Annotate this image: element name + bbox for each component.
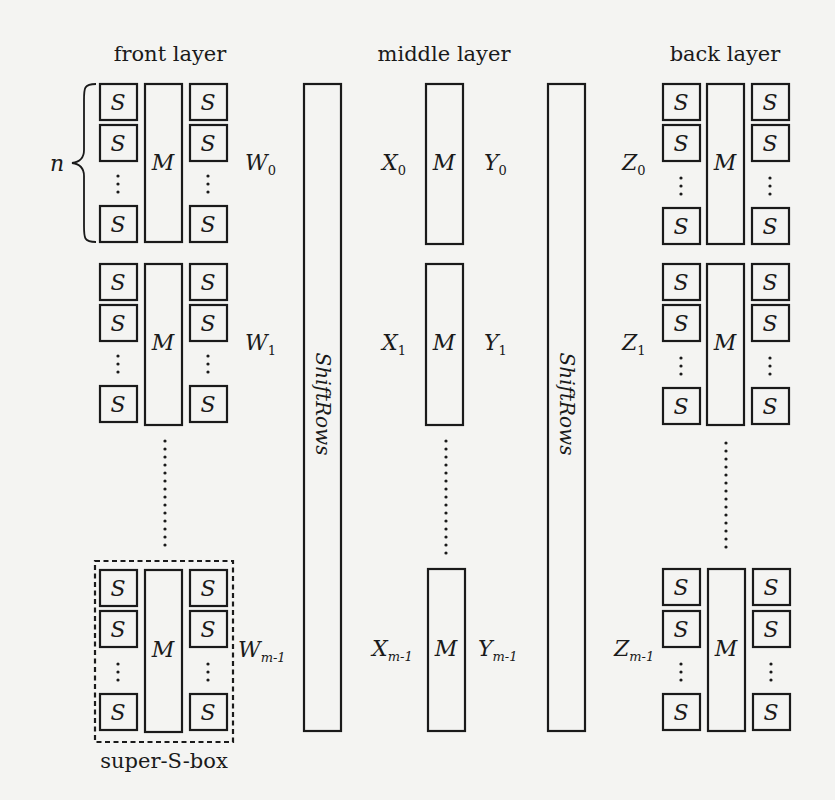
mix-label: M	[714, 636, 738, 661]
middle-layer-header: middle layer	[378, 42, 512, 66]
mix-label: M	[434, 636, 458, 661]
s-box-label: S	[763, 700, 778, 725]
front-layer-header: front layer	[114, 42, 228, 66]
s-box-label: S	[673, 131, 688, 156]
vdots-icon	[679, 356, 771, 375]
s-box-label: S	[110, 576, 125, 601]
s-box-label: S	[200, 700, 215, 725]
word-label-x1: X1	[380, 330, 406, 358]
s-box-label: S	[110, 392, 125, 417]
back-group-last: S S S M S S S Zm-1	[613, 569, 790, 731]
shiftrows-label-left: ShiftRows	[311, 353, 335, 456]
s-box-label: S	[762, 131, 777, 156]
mix-label: M	[432, 330, 456, 355]
s-box-label: S	[110, 270, 125, 295]
s-box-label: S	[762, 394, 777, 419]
vdots-icon	[679, 662, 772, 681]
middle-group-1: M X1 Y1	[380, 264, 507, 425]
front-group-last: S S S M S S S Wm-1	[100, 570, 286, 732]
s-box-label: S	[200, 131, 215, 156]
mix-label: M	[151, 330, 175, 355]
word-label-y0: Y0	[484, 150, 507, 178]
vdots-icon	[679, 176, 771, 195]
mix-label: M	[432, 150, 456, 175]
s-box-label: S	[673, 311, 688, 336]
middle-group-last: M Xm-1 Ym-1	[370, 569, 518, 731]
s-box-label: S	[110, 212, 125, 237]
s-box-label: S	[200, 576, 215, 601]
front-dotted-connector-icon	[163, 439, 166, 546]
word-label-z0: Z0	[621, 150, 646, 178]
s-box-label: S	[673, 617, 688, 642]
s-box-label: S	[200, 392, 215, 417]
s-box-label: S	[200, 270, 215, 295]
diagram-canvas: front layer middle layer back layer n S …	[0, 0, 835, 800]
middle-dotted-connector-icon	[444, 439, 447, 554]
s-box-label: S	[110, 700, 125, 725]
s-box-label: S	[762, 270, 777, 295]
word-label-w1: W1	[245, 330, 276, 358]
back-group-1: S S S M S S S Z1	[621, 264, 789, 425]
word-label-zm1: Zm-1	[613, 636, 654, 664]
s-box-label: S	[200, 90, 215, 115]
word-label-wm1: Wm-1	[238, 637, 286, 665]
s-box-label: S	[200, 212, 215, 237]
middle-group-0: M X0 Y0	[380, 84, 507, 244]
s-box-label: S	[110, 131, 125, 156]
s-box-label: S	[110, 90, 125, 115]
s-box-label: S	[110, 311, 125, 336]
word-label-w0: W0	[245, 150, 276, 178]
super-sbox-diagram: front layer middle layer back layer n S …	[0, 0, 835, 800]
s-box-label: S	[762, 214, 777, 239]
s-box-label: S	[200, 617, 215, 642]
s-box-label: S	[762, 90, 777, 115]
back-layer-header: back layer	[670, 42, 782, 66]
brace-icon	[72, 84, 96, 242]
word-label-y1: Y1	[484, 330, 507, 358]
s-box-label: S	[110, 617, 125, 642]
s-box-label: S	[673, 214, 688, 239]
shiftrows-label-right: ShiftRows	[555, 353, 579, 456]
front-group-0: S S S M S S S W0	[100, 84, 276, 242]
s-box-label: S	[673, 394, 688, 419]
word-label-xm1: Xm-1	[370, 636, 413, 664]
mix-label: M	[151, 637, 175, 662]
vdots-icon	[116, 174, 209, 193]
mix-label: M	[713, 330, 737, 355]
front-group-1: S S S M S S S W1	[100, 264, 276, 425]
word-label-z1: Z1	[621, 330, 646, 358]
mix-label: M	[151, 150, 175, 175]
super-sbox-label: super-S-box	[100, 749, 228, 773]
s-box-label: S	[200, 311, 215, 336]
word-label-ym1: Ym-1	[478, 636, 518, 664]
s-box-label: S	[762, 311, 777, 336]
s-box-label: S	[673, 575, 688, 600]
vdots-icon	[116, 662, 209, 681]
mix-label: M	[713, 150, 737, 175]
s-box-label: S	[673, 270, 688, 295]
s-box-label: S	[763, 617, 778, 642]
brace-label-n: n	[50, 151, 64, 176]
s-box-label: S	[673, 700, 688, 725]
word-label-x0: X0	[380, 150, 406, 178]
vdots-icon	[116, 354, 209, 373]
back-group-0: S S S M S S S Z0	[621, 84, 789, 244]
s-box-label: S	[763, 575, 778, 600]
s-box-label: S	[673, 90, 688, 115]
back-dotted-connector-icon	[724, 441, 727, 548]
